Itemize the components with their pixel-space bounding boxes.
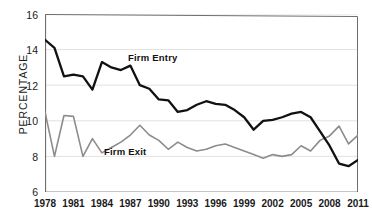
y-tick-label-10: 10 — [12, 115, 38, 127]
y-tick-label-6: 6 — [12, 186, 38, 198]
line-chart: PERCENTAGE 16 14 12 10 8 6 Firm Entry Fi… — [0, 0, 372, 223]
y-tick-label-12: 12 — [12, 80, 38, 92]
plot-area: Firm Entry Firm Exit — [45, 14, 358, 192]
y-tick-label-8: 8 — [12, 151, 38, 163]
x-tick-label-2011: 2011 — [338, 198, 372, 209]
series-annotation-firm-entry: Firm Entry — [128, 52, 178, 63]
y-tick-label-14: 14 — [12, 44, 38, 56]
y-tick-label-16: 16 — [12, 9, 38, 21]
chart-canvas — [45, 14, 358, 192]
series-line-firm-entry — [45, 40, 358, 166]
series-annotation-firm-exit: Firm Exit — [104, 146, 146, 157]
